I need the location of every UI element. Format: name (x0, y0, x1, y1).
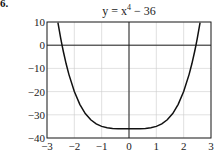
chart-plot-area: −3−2−10123100−10−20−30−40 (0, 0, 218, 153)
x-tick-label: −2 (68, 140, 80, 152)
x-tick-label: 2 (181, 140, 187, 152)
y-tick-label: 0 (40, 39, 46, 51)
y-tick-label: 10 (34, 16, 46, 28)
y-tick-label: −10 (28, 62, 46, 74)
x-tick-label: 0 (126, 140, 132, 152)
y-tick-label: −20 (28, 86, 46, 98)
x-tick-label: 3 (208, 140, 214, 152)
y-tick-label: −30 (28, 109, 46, 121)
x-tick-label: −1 (96, 140, 108, 152)
y-tick-label: −40 (28, 132, 46, 144)
x-tick-label: 1 (154, 140, 160, 152)
